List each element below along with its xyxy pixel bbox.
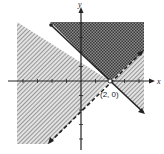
x-axis-arrow-icon bbox=[149, 79, 155, 84]
point-open-circle bbox=[108, 79, 112, 83]
point-label: (2, 0) bbox=[100, 90, 119, 99]
inequality-graph: x y (2, 0) bbox=[0, 0, 164, 154]
x-axis-label: x bbox=[156, 77, 161, 86]
endpoint-icon bbox=[49, 23, 53, 27]
y-axis-label: y bbox=[77, 0, 82, 9]
